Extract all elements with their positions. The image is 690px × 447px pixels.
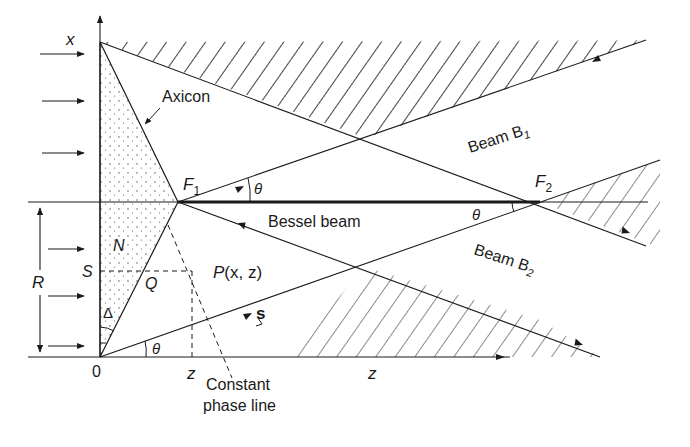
theta-arc-origin — [145, 341, 146, 357]
point-p-label: P(x, z) — [213, 263, 262, 282]
origin-label: 0 — [92, 363, 101, 380]
incident-plane-wave-arrows — [40, 54, 84, 346]
axicon-bessel-beam-diagram: x Axicon F1 θ Bessel beam Beam B1 F2 θ B… — [0, 0, 690, 447]
z-axis-label: z — [367, 364, 377, 383]
r-radius-label: R — [32, 273, 44, 292]
beam-b1-label: Beam B1 — [466, 120, 532, 159]
theta-label-f2: θ — [472, 206, 480, 223]
delta-label: Δ — [103, 304, 113, 321]
constant-phase-line — [168, 225, 232, 378]
right-shadow-region — [540, 160, 660, 248]
axicon-pointer — [147, 108, 160, 122]
q-point-label: Q — [145, 275, 157, 292]
s-point-label: S — [82, 263, 93, 280]
lower-shadow-region — [285, 267, 600, 357]
constant-phase-label-line1: Constant — [206, 376, 271, 393]
x-axis-label: x — [65, 30, 75, 49]
z-tick-label: z — [186, 364, 196, 383]
axicon-label: Axicon — [162, 88, 210, 105]
constant-phase-label-line2: phase line — [203, 397, 276, 414]
theta-label-origin: θ — [152, 340, 160, 357]
f1-label: F1 — [183, 175, 200, 198]
f2-label: F2 — [535, 172, 552, 195]
theta-arc-f1 — [248, 178, 250, 202]
s-vector-label: s — [256, 304, 265, 323]
bessel-beam-label: Bessel beam — [268, 213, 361, 230]
n-label: N — [113, 237, 125, 254]
theta-label-f1: θ — [254, 180, 262, 197]
beam-b2-label: Beam B2 — [471, 241, 537, 280]
